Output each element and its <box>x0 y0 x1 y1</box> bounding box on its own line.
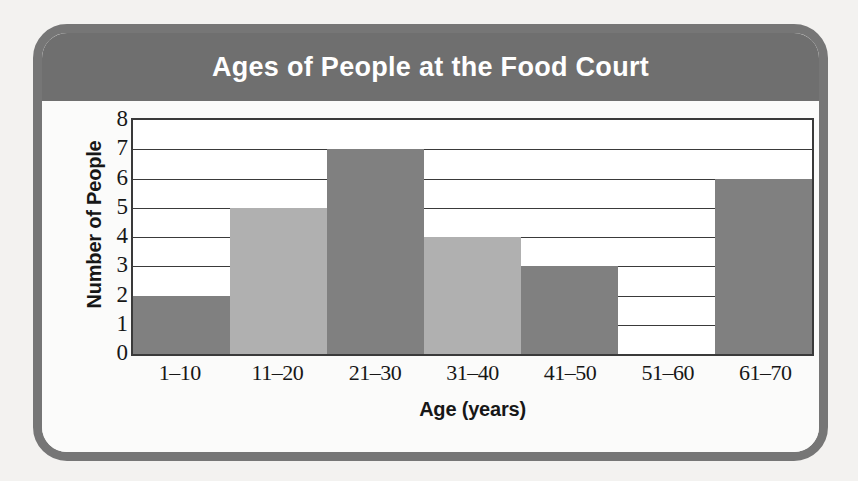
bar <box>715 179 812 355</box>
x-axis-tick-label: 21–30 <box>326 360 424 386</box>
chart-title: Ages of People at the Food Court <box>212 52 649 83</box>
y-axis-tick-label: 0 <box>117 341 129 364</box>
y-axis-tick-label: 8 <box>117 107 129 130</box>
chart-body: Number of People 012345678 1–1011–2021–3… <box>42 101 819 452</box>
bar <box>230 208 327 354</box>
bar <box>327 149 424 354</box>
y-axis-tick-label: 5 <box>117 194 129 217</box>
bar <box>424 237 521 354</box>
x-axis-tick-label: 11–20 <box>229 360 327 386</box>
x-axis-tick-labels: 1–1011–2021–3031–4041–5051–6061–70 <box>131 360 814 386</box>
x-axis-tick-label: 41–50 <box>521 360 619 386</box>
x-axis-title: Age (years) <box>131 398 814 421</box>
bar-series <box>133 120 812 354</box>
y-axis-tick-label: 7 <box>117 136 129 159</box>
x-axis-tick-label: 1–10 <box>131 360 229 386</box>
bar-slot <box>521 120 618 354</box>
bar-slot <box>618 120 715 354</box>
title-banner: Ages of People at the Food Court <box>42 33 819 101</box>
x-axis-tick-label: 51–60 <box>619 360 717 386</box>
y-axis-tick-label: 6 <box>117 165 129 188</box>
bar-slot <box>327 120 424 354</box>
x-axis-tick-label: 31–40 <box>424 360 522 386</box>
scanned-page: Ages of People at the Food Court Number … <box>0 0 858 481</box>
plot-area <box>131 118 814 356</box>
y-axis-tick-label: 4 <box>117 224 129 247</box>
bar-slot <box>133 120 230 354</box>
bar-slot <box>715 120 812 354</box>
bar-slot <box>230 120 327 354</box>
y-axis-tick-label: 3 <box>117 253 129 276</box>
chart-frame: Ages of People at the Food Court Number … <box>33 24 828 461</box>
bar <box>133 296 230 355</box>
x-axis-tick-label: 61–70 <box>716 360 814 386</box>
y-axis-tick-label: 1 <box>117 311 129 334</box>
y-axis-tick-label: 2 <box>117 282 129 305</box>
bar <box>521 266 618 354</box>
bar-slot <box>424 120 521 354</box>
y-axis-tick-labels: 012345678 <box>92 101 128 351</box>
